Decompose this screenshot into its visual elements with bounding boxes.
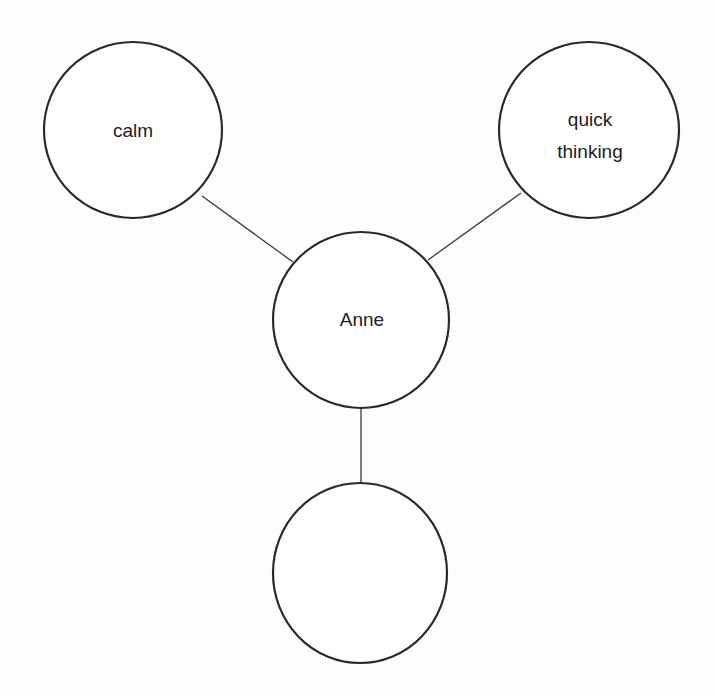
node-quick-thinking: quick thinking xyxy=(499,42,679,218)
edge-calm-anne xyxy=(202,196,293,262)
node-quick-thinking-label-line2: thinking xyxy=(557,141,623,162)
node-calm: calm xyxy=(44,42,222,218)
edge-quick-thinking-anne xyxy=(428,193,521,260)
node-empty xyxy=(273,483,447,663)
node-quick-thinking-label-line1: quick xyxy=(568,109,613,130)
mind-map-diagram: calm quick thinking Anne xyxy=(0,0,715,697)
node-anne: Anne xyxy=(273,232,449,408)
node-calm-label: calm xyxy=(113,120,153,141)
node-anne-label: Anne xyxy=(340,309,384,330)
